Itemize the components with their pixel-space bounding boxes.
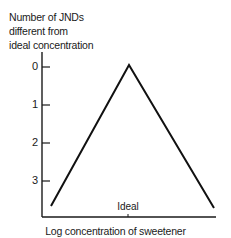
y-tick-label-1: 1 [24, 98, 38, 110]
y-tick-label-2: 2 [24, 136, 38, 148]
y-tick-label-3: 3 [24, 174, 38, 186]
y-tick-label-0: 0 [24, 60, 38, 72]
x-tick-label-ideal: Ideal [113, 201, 143, 212]
data-line [51, 65, 214, 208]
x-axis-label: Log concentration of sweetener [0, 225, 231, 237]
